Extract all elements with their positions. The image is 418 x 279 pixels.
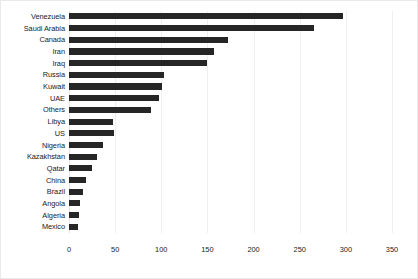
bar <box>69 177 86 183</box>
bar-chart: VenezuelaSaudi ArabiaCanadaIranIraqRussi… <box>0 0 418 279</box>
category-label: Russia <box>3 69 65 80</box>
category-label: Brazil <box>3 186 65 197</box>
x-tick-label: 150 <box>201 245 213 254</box>
bar-row <box>69 23 392 34</box>
bar <box>69 165 92 171</box>
bar <box>69 212 79 218</box>
bar-row <box>69 58 392 69</box>
category-axis: VenezuelaSaudi ArabiaCanadaIranIraqRussi… <box>1 11 65 233</box>
category-label: Iraq <box>3 58 65 69</box>
x-tick-label: 0 <box>67 245 71 254</box>
bar <box>69 48 214 54</box>
bar <box>69 95 159 101</box>
bar-row <box>69 93 392 104</box>
bar-row <box>69 163 392 174</box>
category-label: Qatar <box>3 163 65 174</box>
bar <box>69 72 164 78</box>
category-label: Saudi Arabia <box>3 23 65 34</box>
category-label: Mexico <box>3 221 65 232</box>
category-label: Kazakhstan <box>3 151 65 162</box>
x-tick-label: 350 <box>386 245 398 254</box>
bar-row <box>69 210 392 221</box>
bar-row <box>69 151 392 162</box>
bar-row <box>69 69 392 80</box>
bar-row <box>69 221 392 232</box>
x-tick-label: 300 <box>340 245 352 254</box>
category-label: Kuwait <box>3 81 65 92</box>
bar-row <box>69 186 392 197</box>
category-label: Nigeria <box>3 140 65 151</box>
category-label: Iran <box>3 46 65 57</box>
bar <box>69 154 97 160</box>
category-label: China <box>3 175 65 186</box>
bar <box>69 130 114 136</box>
x-tick-label: 50 <box>111 245 119 254</box>
category-label: Angola <box>3 198 65 209</box>
category-label: Libya <box>3 116 65 127</box>
x-tick-label: 200 <box>247 245 259 254</box>
bar <box>69 107 151 113</box>
category-label: Others <box>3 104 65 115</box>
category-label: US <box>3 128 65 139</box>
bar-row <box>69 140 392 151</box>
bar-row <box>69 175 392 186</box>
value-axis: 050100150200250300350 <box>69 237 392 257</box>
bar-row <box>69 81 392 92</box>
bar-row <box>69 116 392 127</box>
bar <box>69 119 113 125</box>
category-label: Algeria <box>3 210 65 221</box>
bar <box>69 37 228 43</box>
bar <box>69 60 207 66</box>
category-label: Venezuela <box>3 11 65 22</box>
bar-row <box>69 104 392 115</box>
bar <box>69 25 314 31</box>
x-tick-label: 100 <box>155 245 167 254</box>
bar-row <box>69 11 392 22</box>
bar-row <box>69 128 392 139</box>
plot-area <box>69 11 392 233</box>
bar-row <box>69 198 392 209</box>
category-label: UAE <box>3 93 65 104</box>
gridline-350 <box>392 11 393 233</box>
x-tick-label: 250 <box>294 245 306 254</box>
bar <box>69 142 103 148</box>
bar <box>69 13 343 19</box>
bar-row <box>69 34 392 45</box>
bar <box>69 189 83 195</box>
bar <box>69 83 162 89</box>
category-label: Canada <box>3 34 65 45</box>
bar <box>69 200 80 206</box>
bar <box>69 224 78 230</box>
bar-row <box>69 46 392 57</box>
